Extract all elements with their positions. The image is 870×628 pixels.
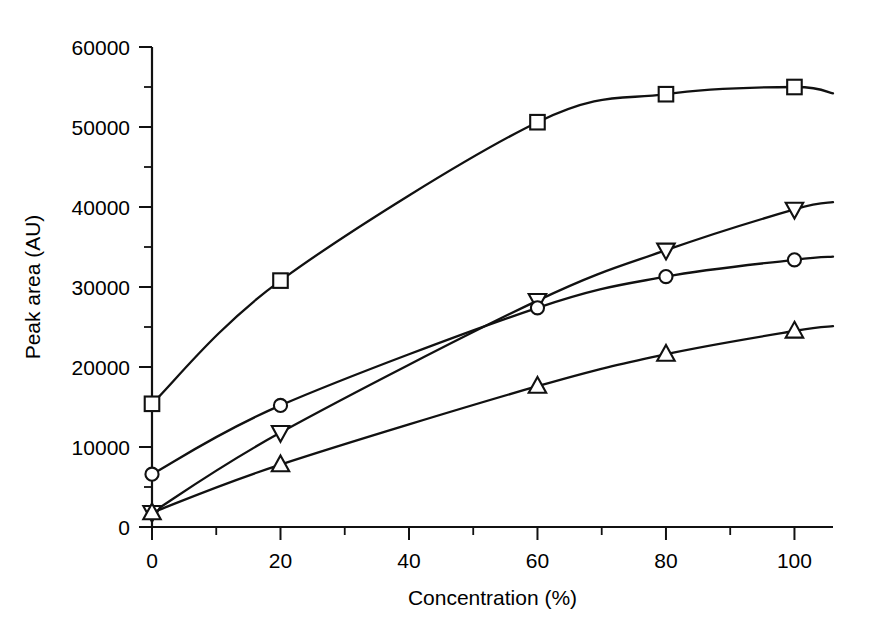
chart-figure: 0100002000030000400005000060000020406080… bbox=[0, 0, 870, 628]
line-chart-canvas: 0100002000030000400005000060000020406080… bbox=[0, 0, 870, 628]
y-tick-label: 40000 bbox=[72, 196, 130, 219]
axes-group bbox=[139, 47, 833, 540]
x-tick-label: 20 bbox=[269, 549, 292, 572]
data-marker-circle bbox=[659, 270, 672, 283]
data-marker-square bbox=[787, 80, 802, 95]
data-marker-triangle-down bbox=[272, 426, 289, 442]
y-axis-title: Peak area (AU) bbox=[21, 215, 44, 360]
series-line-up-triangle-series bbox=[152, 326, 833, 512]
data-marker-circle bbox=[788, 253, 801, 266]
data-marker-square bbox=[273, 273, 288, 288]
series-square-series bbox=[145, 80, 833, 411]
y-tick-label: 10000 bbox=[72, 436, 130, 459]
series-circle-series bbox=[145, 253, 833, 481]
y-tick-label: 50000 bbox=[72, 116, 130, 139]
data-marker-circle bbox=[145, 468, 158, 481]
series-line-down-triangle-series bbox=[152, 202, 833, 512]
series-group bbox=[143, 80, 833, 522]
y-tick-label: 30000 bbox=[72, 276, 130, 299]
x-tick-label: 100 bbox=[777, 549, 812, 572]
x-axis-title: Concentration (%) bbox=[408, 586, 577, 609]
x-tick-label: 0 bbox=[146, 549, 158, 572]
axis-labels-group: 0100002000030000400005000060000020406080… bbox=[21, 36, 812, 609]
data-marker-circle bbox=[531, 301, 544, 314]
x-tick-label: 60 bbox=[526, 549, 549, 572]
series-line-circle-series bbox=[152, 257, 833, 475]
data-marker-square bbox=[530, 115, 545, 130]
y-tick-label: 20000 bbox=[72, 356, 130, 379]
data-marker-square bbox=[659, 87, 674, 102]
series-line-square-series bbox=[152, 87, 833, 404]
data-marker-circle bbox=[274, 399, 287, 412]
y-tick-label: 0 bbox=[118, 516, 130, 539]
data-marker-square bbox=[145, 397, 160, 412]
y-tick-label: 60000 bbox=[72, 36, 130, 59]
x-tick-label: 80 bbox=[654, 549, 677, 572]
x-tick-label: 40 bbox=[397, 549, 420, 572]
series-down-triangle-series bbox=[143, 202, 833, 522]
